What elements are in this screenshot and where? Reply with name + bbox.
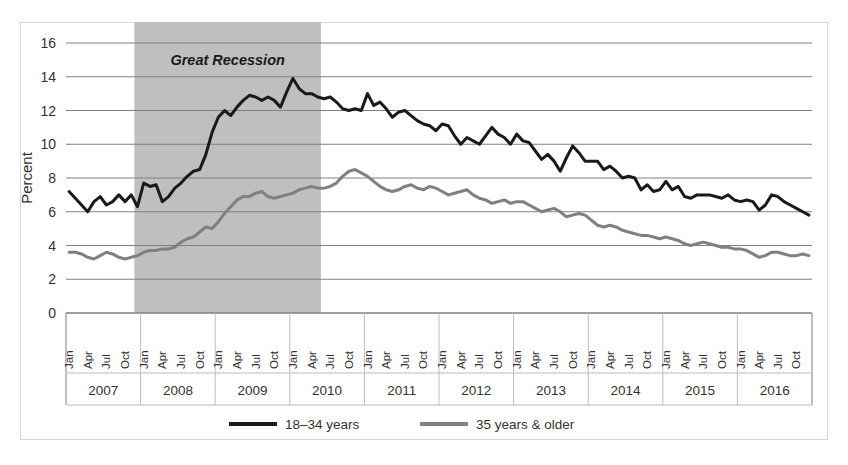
y-tick-label: 0	[48, 305, 56, 321]
x-tick-month-label: Apr	[604, 351, 616, 369]
x-tick-month-label: Jan	[511, 350, 523, 369]
x-tick-month-label: Jan	[138, 350, 150, 369]
recession-annotation-label: Great Recession	[170, 52, 285, 68]
x-tick-month-label: Jan	[212, 350, 224, 369]
y-tick-label: 4	[48, 238, 56, 254]
x-axis-year-label: 2012	[461, 383, 491, 398]
y-tick-label: 6	[48, 204, 56, 220]
x-axis-year-label: 2009	[237, 383, 267, 398]
x-axis-year-label: 2010	[312, 383, 342, 398]
chart-canvas: 0246810121416PercentGreat RecessionJanAp…	[0, 0, 848, 465]
x-tick-month-label: Apr	[753, 351, 765, 369]
x-axis-year-label: 2014	[610, 383, 641, 398]
y-tick-label: 14	[40, 69, 56, 85]
y-tick-label: 12	[40, 103, 56, 119]
x-axis-year-label: 2013	[536, 383, 566, 398]
x-tick-month-label: Jul	[548, 354, 560, 369]
y-tick-label: 16	[40, 35, 56, 51]
x-axis-year-label: 2007	[88, 383, 118, 398]
x-tick-month-label: Apr	[82, 351, 94, 369]
legend-label-2: 35 years & older	[476, 417, 575, 432]
x-tick-month-label: Jul	[175, 354, 187, 369]
x-axis-year-label: 2011	[387, 383, 416, 398]
x-tick-month-label: Apr	[306, 351, 318, 369]
x-tick-month-label: Jan	[362, 350, 374, 369]
x-tick-month-label: Apr	[156, 351, 168, 369]
x-tick-month-label: Jul	[324, 354, 336, 369]
x-tick-month-label: Oct	[790, 350, 802, 369]
legend-label-1: 18–34 years	[285, 417, 360, 432]
x-tick-month-label: Oct	[417, 350, 429, 369]
x-tick-month-label: Oct	[641, 350, 653, 369]
x-tick-month-label: Apr	[231, 351, 243, 369]
x-tick-month-label: Jan	[436, 350, 448, 369]
x-tick-month-label: Jul	[623, 354, 635, 369]
x-tick-month-label: Jan	[660, 350, 672, 369]
x-tick-month-label: Jul	[100, 354, 112, 369]
x-axis-year-label: 2008	[163, 383, 193, 398]
x-tick-month-label: Jan	[63, 350, 75, 369]
x-tick-month-label: Apr	[455, 351, 467, 369]
x-tick-month-label: Jan	[287, 350, 299, 369]
x-tick-month-label: Oct	[194, 350, 206, 369]
x-tick-month-label: Jan	[735, 350, 747, 369]
x-tick-month-label: Jul	[250, 354, 262, 369]
x-axis-year-label: 2015	[685, 383, 715, 398]
x-axis-year-label: 2016	[760, 383, 790, 398]
x-tick-month-label: Jul	[772, 354, 784, 369]
x-tick-month-label: Jan	[585, 350, 597, 369]
x-tick-month-label: Oct	[268, 350, 280, 369]
x-tick-month-label: Oct	[567, 350, 579, 369]
x-tick-month-label: Jul	[697, 354, 709, 369]
x-tick-month-label: Oct	[119, 350, 131, 369]
y-tick-label: 8	[48, 170, 56, 186]
x-tick-month-label: Oct	[492, 350, 504, 369]
x-tick-month-label: Oct	[343, 350, 355, 369]
line-chart: 0246810121416PercentGreat RecessionJanAp…	[0, 0, 848, 465]
x-tick-month-label: Jul	[399, 354, 411, 369]
x-tick-month-label: Apr	[679, 351, 691, 369]
y-tick-label: 10	[40, 136, 56, 152]
x-tick-month-label: Apr	[529, 351, 541, 369]
x-tick-month-label: Apr	[380, 351, 392, 369]
y-tick-label: 2	[48, 271, 56, 287]
y-axis-title: Percent	[18, 151, 35, 204]
x-tick-month-label: Oct	[716, 350, 728, 369]
x-tick-month-label: Jul	[473, 354, 485, 369]
